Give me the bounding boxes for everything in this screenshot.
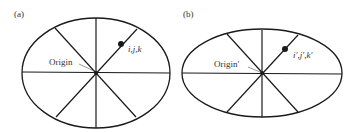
- origin-label-a: Origin: [49, 57, 73, 67]
- diagram-canvas: (a) i,j,k Origin (b) i′,j′,k′ Origin′: [0, 0, 364, 133]
- origin-label-b: Origin′: [214, 59, 239, 69]
- grid-point-a: [118, 41, 124, 47]
- panel-a-tag: (a): [14, 9, 24, 19]
- point-label-b: i′,j′,k′: [293, 50, 313, 60]
- panel-a: (a) i,j,k Origin: [14, 9, 170, 128]
- origin-point-b: [260, 71, 264, 75]
- point-label-a: i,j,k: [128, 44, 143, 54]
- origin-point-a: [94, 71, 98, 75]
- panel-b-tag: (b): [183, 9, 194, 19]
- panel-b: (b) i′,j′,k′ Origin′: [182, 9, 342, 117]
- grid-point-b: [282, 46, 288, 52]
